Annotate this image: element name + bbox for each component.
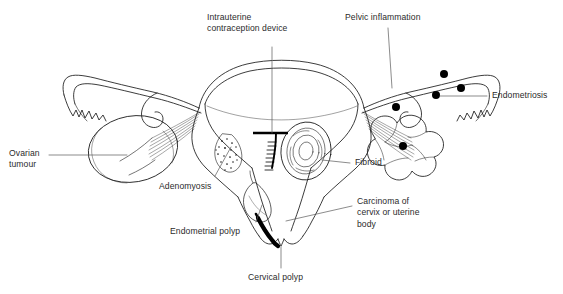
figure-canvas: Intrauterine contraception device Pelvic… — [0, 0, 563, 294]
label-iud: Intrauterine contraception device — [207, 12, 287, 35]
iud-device — [253, 133, 288, 170]
label-endometriosis: Endometriosis — [492, 90, 548, 101]
label-adenomyosis: Adenomyosis — [159, 181, 211, 192]
right-adnexa — [362, 75, 500, 160]
fibroid-lesion — [277, 119, 335, 183]
uterus-body — [192, 60, 371, 197]
anatomy-diagram — [0, 0, 563, 294]
label-cervical-polyp: Cervical polyp — [248, 272, 303, 283]
label-fibroid: Fibroid — [355, 157, 382, 168]
adenomyosis-lesion — [215, 134, 242, 172]
label-pelvic-inflammation: Pelvic inflammation — [345, 12, 421, 23]
endometriosis-dot — [399, 142, 407, 150]
endometriosis-dot — [392, 103, 400, 111]
endometriosis-dot — [432, 91, 440, 99]
leader-fibroid — [322, 160, 350, 163]
endometriosis-dot — [440, 70, 448, 78]
label-endometrial-polyp: Endometrial polyp — [170, 226, 240, 237]
carcinoma-lesion — [256, 214, 278, 246]
cervix — [238, 168, 324, 246]
label-carcinoma: Carcinoma of cervix or uterine body — [357, 196, 420, 230]
left-adnexa — [63, 75, 201, 175]
leader-adenomyosis — [215, 147, 231, 176]
label-ovarian-tumour: Ovarian tumour — [9, 148, 40, 171]
endometriosis-dot — [457, 84, 465, 92]
leader-pelvic-inflammation — [388, 28, 392, 88]
